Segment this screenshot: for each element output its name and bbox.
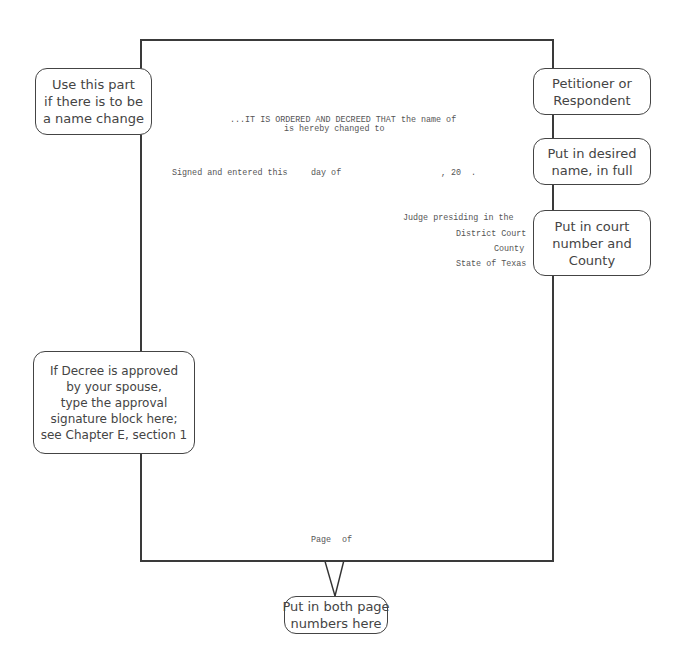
- callout-page-numbers: Put in both page numbers here: [284, 596, 388, 634]
- callout-text: by your spouse,: [66, 379, 162, 395]
- callout-text: signature block here;: [50, 411, 177, 427]
- callout-approval: If Decree is approved by your spouse, ty…: [33, 351, 195, 454]
- signed-day-of: day of: [311, 168, 341, 178]
- order-line-2: is hereby changed to: [284, 124, 385, 134]
- signed-prefix: Signed and entered this: [172, 168, 288, 178]
- callout-text: numbers here: [291, 615, 382, 632]
- callout-text: County: [569, 252, 615, 269]
- callout-text: type the approval: [61, 395, 168, 411]
- county-label: County: [494, 244, 524, 254]
- page-label: Page: [311, 535, 331, 545]
- callout-text: Petitioner or: [552, 75, 632, 92]
- callout-court-number: Put in court number and County: [533, 210, 651, 276]
- callout-text: Use this part: [52, 76, 135, 93]
- callout-text: Put in both page: [282, 598, 389, 615]
- signed-year: , 20: [441, 168, 461, 178]
- callout-petitioner: Petitioner or Respondent: [533, 68, 651, 115]
- signed-period: .: [471, 168, 476, 178]
- callout-text: a name change: [43, 110, 144, 127]
- callout-text: If Decree is approved: [50, 363, 178, 379]
- callout-text: Respondent: [553, 92, 630, 109]
- callout-text: Put in desired: [547, 145, 636, 162]
- callout-desired-name: Put in desired name, in full: [533, 138, 651, 185]
- callout-text: number and: [552, 235, 631, 252]
- callout-text: if there is to be: [44, 93, 143, 110]
- callout-text: see Chapter E, section 1: [41, 427, 188, 443]
- callout-text: Put in court: [555, 218, 630, 235]
- district-court-label: District Court: [456, 229, 526, 239]
- state-label: State of Texas: [456, 259, 526, 269]
- callout-name-change: Use this part if there is to be a name c…: [35, 68, 152, 135]
- callout-text: name, in full: [551, 162, 632, 179]
- of-label: of: [342, 535, 352, 545]
- judge-label: Judge presiding in the: [403, 213, 514, 223]
